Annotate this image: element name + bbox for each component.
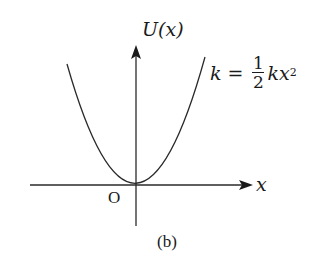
figure-caption: (b): [157, 232, 177, 252]
formula-rhs: kx: [267, 62, 289, 84]
y-axis-label: U(x): [142, 18, 184, 40]
formula-label: k = 1 2 kx2: [210, 54, 297, 91]
origin-label: O: [108, 188, 120, 208]
potential-energy-diagram: U(x) x O (b) k = 1 2 kx2: [0, 0, 317, 271]
fraction-numerator: 1: [253, 54, 264, 72]
x-axis-label: x: [256, 173, 267, 195]
diagram-graphics: [0, 0, 317, 271]
formula-exponent: 2: [290, 66, 297, 79]
fraction-denominator: 2: [253, 73, 264, 91]
formula-lhs: k: [210, 62, 222, 84]
formula-fraction: 1 2: [252, 54, 264, 91]
formula-equals: =: [228, 62, 244, 84]
